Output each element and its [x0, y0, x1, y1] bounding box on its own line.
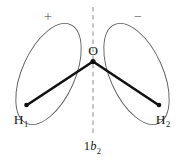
atom-dot-h1	[24, 103, 29, 108]
orbital-diagram-canvas: + − O H1 H2	[0, 0, 185, 162]
atom-dot-oxygen	[90, 59, 95, 64]
molecular-orbital-figure: + − O H1 H2 1b2	[0, 0, 185, 162]
caption-subscript: 2	[97, 146, 102, 156]
atom-dot-h2	[157, 103, 162, 108]
figure-caption: 1b2	[0, 140, 185, 155]
bond-o-h2	[93, 62, 159, 106]
bond-o-h1	[27, 62, 93, 106]
atom-label-oxygen: O	[88, 43, 98, 58]
atom-label-h2: H2	[156, 112, 171, 129]
atom-label-h2-subscript: 2	[166, 119, 170, 129]
phase-sign-positive: +	[44, 9, 52, 24]
phase-sign-negative: −	[134, 9, 142, 24]
atom-label-h2-element: H	[156, 112, 166, 127]
atom-label-h1-element: H	[14, 112, 24, 127]
atom-label-h1: H1	[14, 112, 29, 129]
atom-label-h1-subscript: 1	[24, 119, 28, 129]
orbital-lobe-right	[90, 14, 182, 134]
